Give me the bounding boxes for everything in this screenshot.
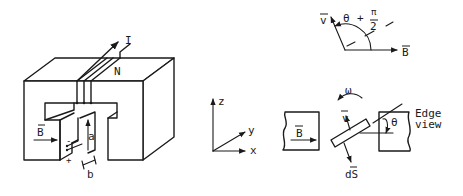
- field-label-angle: B: [402, 46, 409, 59]
- y-axis-label: y: [248, 124, 255, 137]
- x-axis-label: x: [250, 144, 257, 157]
- edge-view-caption-line2: view: [415, 118, 442, 131]
- z-axis-label: z: [218, 95, 225, 108]
- area-element-label: dS: [345, 168, 358, 181]
- field-label-magnet: B: [37, 126, 44, 139]
- gap-width-label: b: [87, 168, 94, 181]
- angle-pi: π: [371, 7, 377, 17]
- angle-diagram: [320, 14, 410, 50]
- angle-two: 2: [370, 20, 377, 33]
- angle-plus: +: [357, 12, 364, 25]
- current-label: I: [125, 34, 132, 47]
- velocity-label-angle: v: [320, 14, 327, 27]
- angle-theta: θ: [343, 12, 350, 25]
- field-label-edge: B: [296, 127, 303, 140]
- gap-height-label: a: [88, 130, 95, 143]
- theta-label-edge: θ: [391, 116, 398, 129]
- plus-sign: +: [66, 155, 72, 165]
- omega-label: ω: [345, 84, 352, 97]
- velocity-label-edge: v: [342, 112, 349, 125]
- turns-label: N: [114, 65, 121, 78]
- magnet-core: [24, 58, 174, 160]
- minus-sign: -: [66, 136, 71, 146]
- physics-diagram: I N B a b - + z y x v B θ + π: [0, 0, 463, 196]
